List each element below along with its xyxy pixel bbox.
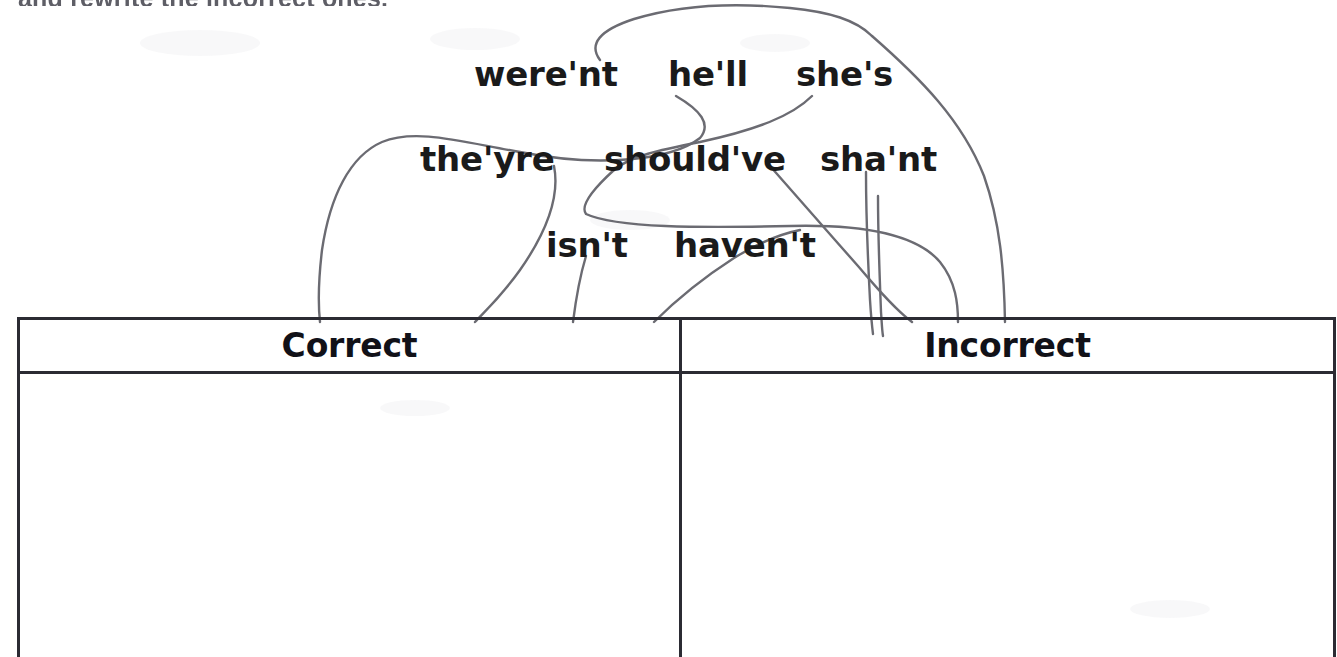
word-bank-item[interactable]: haven't [674,228,816,262]
line-werent-to-correct [595,5,872,60]
word-bank-item[interactable]: should've [604,142,786,176]
instruction-text: and rewrite the incorrect ones. [18,0,718,6]
scan-speckle [140,30,260,56]
column-header-incorrect: Incorrect [679,320,1333,371]
word-bank-item[interactable]: she's [796,57,893,91]
table-header-row: Correct Incorrect [20,320,1333,374]
answer-cell-correct[interactable] [20,374,679,657]
word-bank-item[interactable]: he'll [668,57,748,91]
table-body-row [20,374,1333,657]
line-shant-down-2 [878,196,883,336]
scan-speckle [740,34,810,52]
line-shant-down [866,172,873,334]
word-bank-item[interactable]: isn't [546,228,628,262]
answer-cell-incorrect[interactable] [679,374,1333,657]
word-bank-item[interactable]: the'yre [420,142,555,176]
line-isnt-tick [573,256,586,322]
column-header-correct: Correct [20,320,679,371]
word-bank-item[interactable]: sha'nt [820,142,937,176]
line-theyre-to-correct [475,166,556,322]
sorting-table: Correct Incorrect [17,317,1336,657]
scan-speckle [430,28,520,50]
line-hell-loop-correct [319,96,705,322]
word-bank-item[interactable]: were'nt [474,57,618,91]
